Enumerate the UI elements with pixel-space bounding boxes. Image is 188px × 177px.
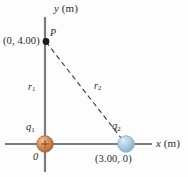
charge-q2-coordinate-label: (3.00, 0) [95, 154, 132, 165]
point-p-marker [43, 38, 50, 45]
r2-distance-label: r2 [94, 81, 101, 92]
charge-q2-label: q2 [112, 121, 121, 132]
x-axis-label: x (m) [156, 138, 180, 149]
origin-label: 0 [33, 152, 38, 163]
charge-q2-marker [118, 136, 135, 153]
point-p-label: P [50, 28, 56, 38]
charge-field-diagram: y (m) x (m) P (0, 4.00) r1 r2 q1 q2 0 (3… [0, 0, 188, 177]
charge-q1-label: q1 [26, 122, 35, 133]
charge-q1-marker [37, 136, 54, 153]
r1-distance-label: r1 [28, 82, 35, 93]
point-p-coordinate-label: (0, 4.00) [3, 36, 40, 47]
y-axis-label: y (m) [54, 3, 78, 14]
